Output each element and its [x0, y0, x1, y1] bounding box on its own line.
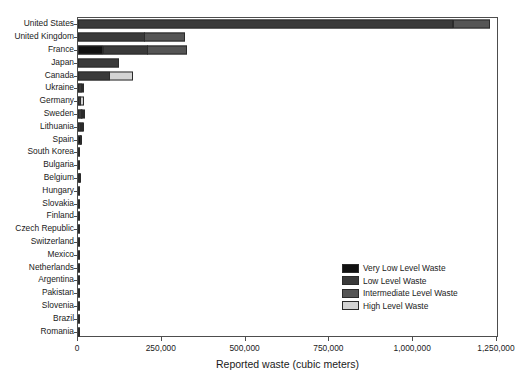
x-axis-title: Reported waste (cubic meters)	[77, 358, 498, 370]
y-axis-label-united-states: United States	[0, 19, 74, 27]
y-axis-label-switzerland: Switzerland	[0, 237, 74, 245]
bar-segment-low-level-waste	[78, 250, 80, 259]
y-axis-label-argentina: Argentina	[0, 275, 74, 283]
y-axis-label-sweden: Sweden	[0, 109, 74, 117]
bar-spain	[78, 135, 82, 144]
bar-segment-low-level-waste	[80, 135, 82, 144]
legend-swatch-icon	[342, 264, 359, 273]
bar-segment-low-level-waste	[78, 199, 80, 208]
y-axis-tick	[74, 242, 78, 243]
x-axis-tick-label: 750,000	[313, 343, 343, 353]
bar-segment-low-level-waste	[79, 174, 81, 183]
bar-segment-low-level-waste	[78, 20, 453, 29]
legend-item-very-low-level-waste[interactable]: Very Low Level Waste	[342, 262, 492, 275]
y-axis-tick	[74, 255, 78, 256]
y-axis-label-bulgaria: Bulgaria	[0, 160, 74, 168]
bar-slovenia	[78, 302, 80, 311]
y-axis-label-finland: Finland	[0, 211, 74, 219]
y-axis-label-france: France	[0, 45, 74, 53]
y-axis-tick	[74, 140, 78, 141]
y-axis-label-netherlands: Netherlands	[0, 262, 74, 270]
x-axis-tick-label: 500,000	[229, 343, 259, 353]
y-axis-tick-labels: United StatesUnited KingdomFranceJapanCa…	[0, 17, 74, 337]
bar-ukraine	[78, 84, 84, 93]
bar-segment-low-level-waste	[78, 58, 119, 67]
y-axis-tick	[74, 204, 78, 205]
bar-segment-low-level-waste	[78, 327, 80, 336]
x-axis-tick	[328, 337, 329, 341]
y-axis-tick	[74, 76, 78, 77]
bar-segment-intermediate-level-waste	[453, 20, 490, 29]
bar-united-kingdom	[78, 33, 185, 42]
y-axis-tick	[74, 114, 78, 115]
x-axis-tick-label: 250,000	[146, 343, 176, 353]
y-axis-tick	[74, 293, 78, 294]
bar-argentina	[78, 276, 80, 285]
y-axis-label-spain: Spain	[0, 134, 74, 142]
y-axis-label-japan: Japan	[0, 58, 74, 66]
legend-item-intermediate-level-waste[interactable]: Intermediate Level Waste	[342, 287, 492, 300]
x-axis-tick-label: 1,000,000	[394, 343, 431, 353]
bar-segment-low-level-waste	[78, 212, 80, 221]
legend-swatch-icon	[342, 276, 359, 285]
legend-item-high-level-waste[interactable]: High Level Waste	[342, 300, 492, 313]
legend-label: Intermediate Level Waste	[363, 289, 458, 297]
bar-pakistan	[78, 289, 80, 298]
y-axis-label-hungary: Hungary	[0, 186, 74, 194]
x-axis-tick	[245, 337, 246, 341]
y-axis-tick	[74, 63, 78, 64]
bar-segment-low-level-waste	[78, 161, 80, 170]
legend-label: Low Level Waste	[363, 277, 426, 285]
y-axis-tick	[74, 101, 78, 102]
bar-segment-high-level-waste	[82, 84, 84, 93]
bar-segment-low-level-waste	[78, 238, 80, 247]
y-axis-tick	[74, 229, 78, 230]
y-axis-tick	[74, 268, 78, 269]
y-axis-tick	[74, 127, 78, 128]
y-axis-tick	[74, 37, 78, 38]
bar-segment-high-level-waste	[83, 110, 85, 119]
x-axis-tick	[161, 337, 162, 341]
y-axis-tick	[74, 306, 78, 307]
bar-segment-low-level-waste	[78, 33, 145, 42]
legend-swatch-icon	[342, 289, 359, 298]
legend-swatch-icon	[342, 301, 359, 310]
y-axis-label-slovakia: Slovakia	[0, 198, 74, 206]
bar-segment-low-level-waste	[78, 314, 80, 323]
legend-label: Very Low Level Waste	[363, 264, 446, 272]
bar-canada	[78, 71, 133, 80]
bar-segment-very-low-level-waste	[78, 46, 103, 55]
y-axis-label-brazil: Brazil	[0, 314, 74, 322]
bar-france	[78, 46, 187, 55]
y-axis-tick	[74, 165, 78, 166]
plot-area: Very Low Level WasteLow Level WasteInter…	[77, 17, 498, 337]
y-axis-tick	[74, 178, 78, 179]
bar-sweden	[78, 110, 85, 119]
bar-segment-low-level-waste	[78, 225, 80, 234]
y-axis-tick	[74, 88, 78, 89]
x-axis-tick-label: 0	[75, 343, 80, 353]
bar-segment-low-level-waste	[78, 276, 80, 285]
y-axis-label-mexico: Mexico	[0, 250, 74, 258]
bar-segment-low-level-waste	[103, 46, 148, 55]
y-axis-label-czech-republic: Czech Republic	[0, 224, 74, 232]
bar-segment-low-level-waste	[78, 289, 80, 298]
bar-segment-low-level-waste	[78, 148, 80, 157]
y-axis-label-germany: Germany	[0, 96, 74, 104]
y-axis-label-belgium: Belgium	[0, 173, 74, 181]
y-axis-label-romania: Romania	[0, 326, 74, 334]
bar-hungary	[78, 186, 80, 195]
y-axis-tick	[74, 332, 78, 333]
chart-legend: Very Low Level WasteLow Level WasteInter…	[342, 262, 492, 312]
x-axis-tick	[412, 337, 413, 341]
y-axis-tick	[74, 319, 78, 320]
bar-romania	[78, 327, 80, 336]
bar-brazil	[78, 314, 80, 323]
legend-item-low-level-waste[interactable]: Low Level Waste	[342, 275, 492, 288]
bar-segment-high-level-waste	[109, 71, 132, 80]
y-axis-label-ukraine: Ukraine	[0, 83, 74, 91]
bar-segment-high-level-waste	[82, 122, 84, 131]
bar-finland	[78, 212, 80, 221]
bar-japan	[78, 58, 119, 67]
